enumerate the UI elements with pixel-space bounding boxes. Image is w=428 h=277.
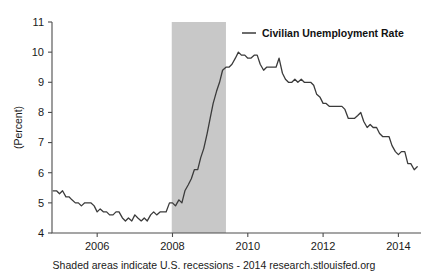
y-tick-label: 8 — [38, 106, 44, 118]
data-line-group — [53, 52, 417, 221]
x-tick-label: 2008 — [160, 240, 184, 252]
series-line — [53, 52, 417, 221]
y-axis-title: (Percent) — [12, 106, 24, 149]
legend-label: Civilian Unemployment Rate — [262, 27, 404, 39]
y-tick-label: 4 — [38, 227, 44, 239]
legend-group: Civilian Unemployment Rate — [242, 27, 404, 39]
x-tick-labels: 20062008201020122014 — [85, 240, 411, 252]
y-tick-label: 9 — [38, 76, 44, 88]
x-tick-label: 2006 — [85, 240, 109, 252]
y-axis-title-group: (Percent) — [12, 106, 24, 149]
y-tick-label: 7 — [38, 136, 44, 148]
axis-spine — [52, 22, 421, 233]
x-tick-label: 2010 — [236, 240, 260, 252]
y-tick-label: 10 — [32, 46, 44, 58]
x-tick-label: 2012 — [311, 240, 335, 252]
y-tick-label: 6 — [38, 167, 44, 179]
y-tick-label: 11 — [33, 16, 44, 28]
unemployment-rate-line-chart: 4567891011 20062008201020122014 (Percent… — [0, 0, 428, 277]
x-tick-label: 2014 — [386, 240, 410, 252]
y-tick-label: 5 — [38, 197, 44, 209]
footer-group: Shaded areas indicate U.S. recessions - … — [53, 259, 376, 271]
footer-note: Shaded areas indicate U.S. recessions - … — [53, 259, 376, 271]
plot-axes — [48, 22, 421, 237]
chart-container: 4567891011 20062008201020122014 (Percent… — [0, 0, 428, 277]
y-tick-labels: 4567891011 — [32, 16, 44, 239]
